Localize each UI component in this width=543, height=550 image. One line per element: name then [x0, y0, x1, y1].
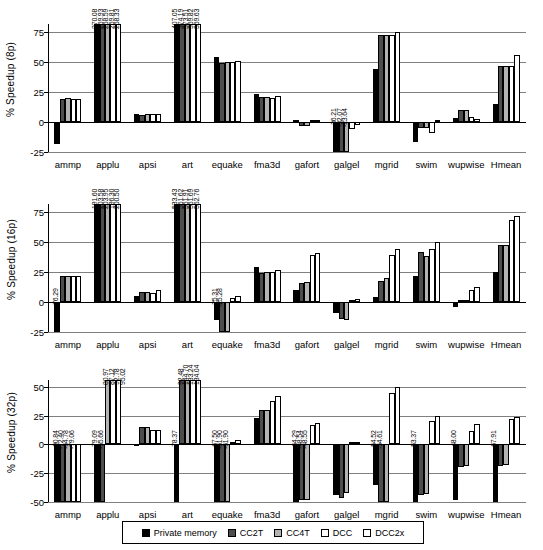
x-tick-label-art: art — [182, 339, 193, 350]
legend-swatch-icon — [228, 529, 236, 537]
bar-art-dcc2x — [196, 24, 201, 122]
y-tick-label: 75 — [33, 207, 44, 218]
chart-panel-2: % Speedup (32p)ammpappluapsiartequakefma… — [0, 362, 543, 520]
bar-value-label: -23.64 — [341, 108, 348, 127]
bar-equake-cc4t — [225, 302, 230, 332]
bar-group-applu: 270.08269.93268.59259.81268.33 — [88, 24, 128, 152]
legend-swatch-icon — [142, 529, 150, 537]
bar-gafort-cc4t — [304, 122, 309, 126]
bar-art-dcc2x — [196, 204, 201, 302]
bar-group-applu: -79.09-55.6680.9787.1292.7895.02 — [88, 380, 128, 502]
x-tick-label-swim: swim — [416, 339, 438, 350]
bar-gafort-dcc2x — [315, 253, 320, 302]
x-tick-label-applu: applu — [96, 339, 119, 350]
bar-ammp-dcc2x — [76, 276, 81, 302]
bar-galgel-dcc2x — [355, 122, 360, 124]
x-tick-label-ammp: ammp — [55, 159, 81, 170]
bar-mgrid-cc4t — [384, 444, 389, 502]
x-tick-label-Hmean: Hmean — [491, 509, 522, 520]
bar-swim-dcc2x — [435, 416, 440, 444]
bar-applu-dcc2x — [116, 24, 121, 122]
legend-label: CC4T — [286, 528, 310, 538]
y-axis-label-text: % Speedup (8p) — [6, 41, 17, 116]
bar-group-mgrid: -54.52-54.61 — [367, 380, 407, 502]
bar-group-Hmean — [486, 24, 526, 152]
x-tick-label-mgrid: mgrid — [375, 159, 399, 170]
y-tick-mark — [44, 502, 48, 503]
x-tick-label-art: art — [182, 509, 193, 520]
bar-group-Hmean — [486, 204, 526, 332]
bar-gafort-dcc2x — [315, 423, 320, 444]
legend-label: DCC — [333, 528, 353, 538]
bar-group-art: 407.05374.19373.51369.82369.63 — [168, 24, 208, 152]
legend-item-dcc2x: DCC2x — [363, 528, 404, 538]
bar-group-applu: 191.60203.58203.95196.30200.50 — [88, 204, 128, 332]
x-tick-label-wupwise: wupwise — [448, 339, 484, 350]
chart-panel-1: % Speedup (16p)ammpappluapsiartequakefma… — [0, 186, 543, 358]
bar-gafort-dcc2x — [315, 120, 320, 122]
x-tick-label-applu: applu — [96, 509, 119, 520]
legend-item-private-memory: Private memory — [142, 528, 217, 538]
y-tick-label: 25 — [33, 87, 44, 98]
x-tick-label-galgel: galgel — [334, 509, 359, 520]
bar-value-label: -67.91 — [490, 431, 497, 450]
chart-figure: % Speedup (8p)ammpappluapsiartequakefma3… — [0, 0, 543, 550]
bar-value-label: -25.28 — [216, 288, 223, 307]
grid-line — [48, 332, 526, 333]
y-tick-mark — [44, 152, 48, 153]
bar-value-label: -55.66 — [97, 431, 104, 450]
bar-swim-dcc2x — [435, 120, 440, 122]
y-tick-label: 25 — [33, 410, 44, 421]
bar-value-label: -53.37 — [410, 431, 417, 450]
y-tick-label: 50 — [33, 57, 44, 68]
bar-fma3d-dcc2x — [275, 396, 280, 444]
bar-group-mgrid — [367, 24, 407, 152]
y-tick-label: 25 — [33, 267, 44, 278]
bar-group-equake — [207, 24, 247, 152]
plot-area: -50-2502550-90.84-72.40-64.78-79.06-79.0… — [48, 380, 526, 502]
y-tick-label: -50 — [30, 497, 44, 508]
x-tick-label-gafort: gafort — [295, 339, 319, 350]
y-axis-label: % Speedup (32p) — [2, 362, 20, 502]
x-tick-label-galgel: galgel — [334, 339, 359, 350]
x-tick-label-swim: swim — [416, 509, 438, 520]
bar-equake-cc4t — [225, 444, 230, 502]
x-tick-label-art: art — [182, 159, 193, 170]
y-tick-label: 0 — [39, 439, 44, 450]
y-tick-label: 50 — [33, 381, 44, 392]
bar-galgel-dcc2x — [355, 442, 360, 445]
bar-group-wupwise — [446, 24, 486, 152]
bar-group-apsi — [128, 380, 168, 502]
bar-group-swim: -53.37 — [407, 380, 447, 502]
x-tick-label-fma3d: fma3d — [254, 159, 280, 170]
bar-Hmean-cc4t — [503, 444, 508, 465]
y-axis-label: % Speedup (16p) — [2, 186, 20, 332]
bar-wupwise-cc4t — [464, 444, 469, 466]
grid-line — [48, 502, 526, 503]
legend-swatch-icon — [321, 529, 329, 537]
y-tick-label: 50 — [33, 237, 44, 248]
bar-value-label: -78.37 — [171, 431, 178, 450]
bar-value-label: 552.76 — [193, 189, 200, 209]
bar-applu-cc2t — [100, 444, 105, 502]
x-tick-label-ammp: ammp — [55, 339, 81, 350]
bar-value-label: 268.33 — [113, 9, 120, 29]
bar-galgel-dcc2x — [355, 299, 360, 302]
legend-item-dcc: DCC — [321, 528, 353, 538]
bar-group-ammp: -90.84-72.40-64.78-79.06 — [48, 380, 88, 502]
bar-group-equake: -67.50-61.90-61.90 — [207, 380, 247, 502]
bar-gafort-cc4t — [304, 444, 309, 500]
legend-label: DCC2x — [375, 528, 404, 538]
bar-group-galgel — [327, 204, 367, 332]
bar-fma3d-dcc2x — [275, 96, 280, 122]
bar-group-art: -78.3792.48144.70133.24134.04 — [168, 380, 208, 502]
bar-wupwise-dcc2x — [474, 424, 479, 444]
bar-group-gafort — [287, 204, 327, 332]
y-tick-label: 0 — [39, 117, 44, 128]
bar-Hmean-dcc2x — [514, 55, 519, 122]
x-tick-label-gafort: gafort — [295, 509, 319, 520]
legend-item-cc2t: CC2T — [228, 528, 264, 538]
bar-ammp-private-memory — [54, 122, 59, 144]
y-tick-label: -25 — [30, 468, 44, 479]
bar-ammp-dcc2x — [76, 99, 81, 122]
